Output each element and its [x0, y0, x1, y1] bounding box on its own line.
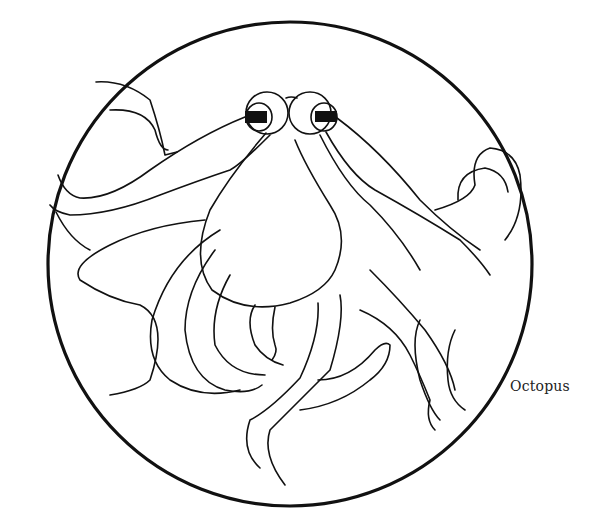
- octopus-illustration: [0, 0, 614, 516]
- mantle: [200, 133, 341, 307]
- arm-upper-right: [337, 118, 480, 250]
- eye-bridge: [286, 97, 297, 98]
- arm-center-2: [250, 305, 283, 365]
- octopus-body-group: [50, 82, 521, 485]
- wave-left-top: [96, 82, 177, 155]
- arm-upper-left: [58, 117, 245, 198]
- circle-frame: [48, 22, 532, 506]
- caption: Octopus: [510, 378, 570, 394]
- left-eye: [245, 92, 288, 134]
- arm-lower-right: [370, 270, 455, 390]
- arm-left-lower: [78, 220, 205, 395]
